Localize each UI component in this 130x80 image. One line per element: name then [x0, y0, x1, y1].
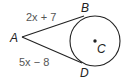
label-d: D: [80, 66, 89, 80]
label-a: A: [9, 31, 18, 45]
label-c: C: [97, 42, 106, 56]
segment-ad-expression: 5x − 8: [19, 56, 49, 68]
tangent-diagram: A B C D 2x + 7 5x − 8: [0, 0, 130, 80]
segment-ab-expression: 2x + 7: [26, 11, 56, 23]
label-b: B: [81, 1, 89, 15]
